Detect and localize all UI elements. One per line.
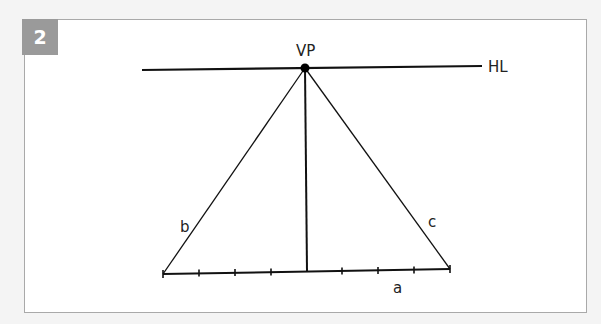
vanishing-point-dot <box>301 64 310 73</box>
edge-c-label: c <box>428 213 436 231</box>
base-a-label: a <box>393 279 402 297</box>
vp-label: VP <box>296 42 315 60</box>
edge-b-line <box>163 68 305 274</box>
edge-c-line <box>305 68 450 269</box>
edge-b-label: b <box>180 218 190 236</box>
hl-label: HL <box>488 58 508 76</box>
vertical-center-line <box>305 68 307 271</box>
horizon-line <box>142 66 482 70</box>
perspective-diagram: VP HL b c a <box>0 0 601 324</box>
